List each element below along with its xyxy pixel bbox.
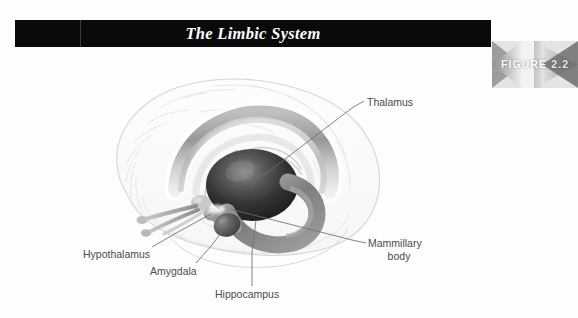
- figure-title: The Limbic System: [15, 20, 491, 47]
- figure-badge-number: 2.2: [551, 58, 569, 70]
- label-amygdala: Amygdala: [150, 265, 197, 278]
- label-mammillary-line2: body: [368, 250, 430, 263]
- figure-number-badge: FIGURE 2.2: [492, 41, 578, 88]
- label-hippocampus: Hippocampus: [215, 288, 279, 301]
- figure-badge-label: FIGURE 2.2: [492, 41, 578, 88]
- label-mammillary-body: Mammillary body: [368, 237, 438, 262]
- label-mammillary-line1: Mammillary: [368, 237, 422, 249]
- figure-page: The Limbic System: [0, 0, 578, 318]
- figure-title-bar: The Limbic System: [15, 20, 491, 47]
- label-hypothalamus: Hypothalamus: [83, 248, 150, 261]
- figure-badge-word: FIGURE: [501, 58, 547, 70]
- label-thalamus: Thalamus: [367, 96, 413, 109]
